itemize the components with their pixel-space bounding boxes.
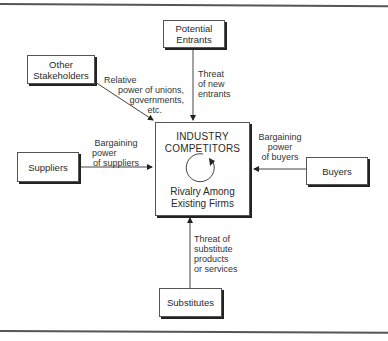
substitutes-box: Substitutes [159, 288, 222, 317]
potential-entrants-line1: Potential [176, 23, 213, 34]
other-stakeholders-line2: Stakeholders [33, 70, 88, 81]
suppliers-box: Suppliers [17, 152, 79, 182]
substitutes-label: Substitutes [167, 297, 214, 308]
industry-competitors-box: INDUSTRY COMPETITORS Rivalry Among Exist… [155, 122, 250, 216]
potential-entrants-box: Potential Entrants [163, 20, 225, 48]
potential-entrants-line2: Entrants [176, 34, 211, 45]
stakeholders-edge-label: Relative power of unions, governments, e… [100, 75, 184, 115]
suppliers-edge-label: Bargaining power of suppliers [86, 138, 146, 168]
substitutes-edge-label: Threat of substitute products or service… [194, 234, 238, 274]
other-stakeholders-box: Other Stakeholders [27, 55, 95, 84]
center-subtitle-line1: Rivalry Among [170, 186, 234, 198]
center-subtitle-line2: Existing Firms [170, 198, 234, 210]
suppliers-label: Suppliers [28, 162, 68, 173]
buyers-box: Buyers [306, 157, 368, 185]
center-title-line2: COMPETITORS [165, 143, 240, 155]
entrants-edge-label: Threat of new entrants [198, 69, 231, 99]
center-title-line1: INDUSTRY [165, 131, 240, 143]
other-stakeholders-line1: Other [49, 59, 73, 70]
buyers-label: Buyers [322, 166, 352, 177]
buyers-edge-label: Bargaining power of buyers [252, 132, 308, 162]
